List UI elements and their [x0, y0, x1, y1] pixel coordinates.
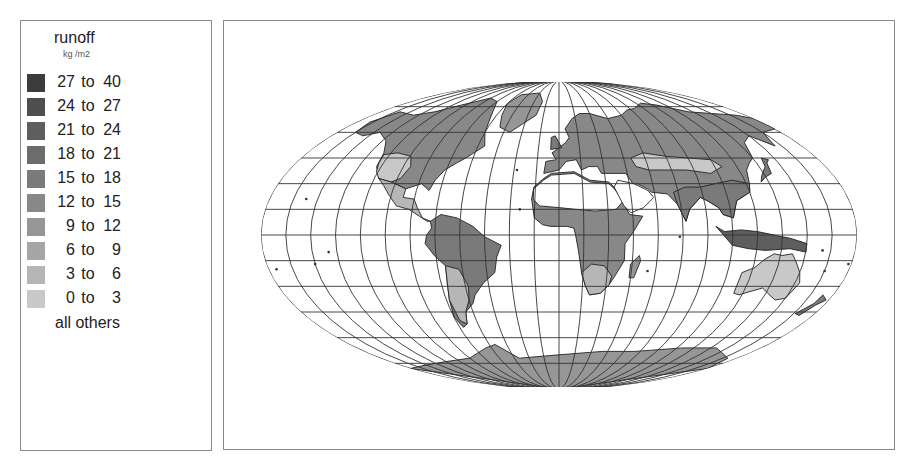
legend-item: 18to21 [27, 146, 197, 170]
legend-swatch [27, 194, 45, 212]
region-sahara [533, 173, 623, 211]
island-marker [519, 208, 522, 211]
legend-swatch [27, 218, 45, 236]
legend-item: 0to3 [27, 290, 197, 314]
legend-item: 24to27 [27, 98, 197, 122]
region-uk [551, 136, 562, 150]
region-indonesia [716, 226, 807, 252]
legend-item: 6to9 [27, 242, 197, 266]
island-marker [327, 251, 330, 254]
legend-item: 12to15 [27, 194, 197, 218]
region-japan [761, 158, 771, 182]
legend-swatch [27, 74, 45, 92]
legend-label: 0to3 [55, 289, 121, 307]
legend-item: 27to40 [27, 74, 197, 98]
legend-label: 21to24 [55, 121, 121, 139]
legend-other-label: all others [55, 314, 120, 332]
legend-title: runoff [54, 29, 95, 47]
island-marker [305, 198, 308, 201]
legend-item: 9to12 [27, 218, 197, 242]
legend-swatch [27, 170, 45, 188]
legend-label: 24to27 [55, 97, 121, 115]
region-north-america [355, 98, 497, 190]
legend-swatch [27, 290, 45, 308]
legend-list: 27to4024to2721to2418to2115to1812to159to1… [27, 74, 197, 314]
legend-swatch [27, 122, 45, 140]
map-panel [223, 20, 895, 450]
legend-swatch [27, 98, 45, 116]
island-marker [516, 169, 519, 172]
world-map [224, 21, 894, 449]
legend-label: 3to6 [55, 265, 121, 283]
legend-label: 27to40 [55, 73, 121, 91]
legend-label: 18to21 [55, 145, 121, 163]
legend-swatch [27, 242, 45, 260]
legend-swatch [27, 146, 45, 164]
legend-label: 9to12 [55, 217, 121, 235]
island-marker [821, 249, 824, 252]
legend-swatch [27, 266, 45, 284]
island-marker [646, 270, 649, 273]
legend-label: 6to9 [55, 241, 121, 259]
island-marker [314, 263, 317, 266]
region-antarctica [410, 345, 728, 390]
island-marker [679, 235, 682, 238]
legend-panel: runoff kg /m2 27to4024to2721to2418to2115… [20, 20, 212, 451]
legend-label: 12to15 [55, 193, 121, 211]
legend-label: 15to18 [55, 169, 121, 187]
legend-item: 21to24 [27, 122, 197, 146]
island-marker [847, 263, 850, 266]
legend-unit: kg /m2 [63, 49, 90, 59]
island-marker [275, 268, 278, 271]
legend-item: 3to6 [27, 266, 197, 290]
legend-item: 15to18 [27, 170, 197, 194]
island-marker [823, 270, 826, 273]
